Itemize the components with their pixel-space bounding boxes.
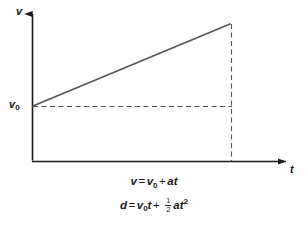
initial-velocity-subscript: 0 xyxy=(15,103,19,112)
velocity-equation-lhs: v xyxy=(131,175,137,187)
displacement-equation-equals: = xyxy=(127,199,137,211)
fraction-denominator: 2 xyxy=(165,205,171,214)
displacement-equation-plus: + xyxy=(151,199,161,211)
velocity-equation: v=v0+at xyxy=(0,176,308,188)
displacement-equation-lhs: d xyxy=(120,199,127,211)
y-axis-label: v xyxy=(16,6,22,17)
displacement-equation-v0-sub: 0 xyxy=(143,204,147,213)
velocity-equation-at: at xyxy=(167,175,177,187)
displacement-equation-exponent: 2 xyxy=(184,197,188,206)
x-axis-label: t xyxy=(290,164,294,175)
velocity-equation-plus: + xyxy=(158,175,168,187)
velocity-equation-v0-sub: 0 xyxy=(153,181,157,190)
one-half-fraction: 12 xyxy=(165,197,171,214)
displacement-equation-at2: at2 xyxy=(173,199,188,211)
displacement-equation-at: at xyxy=(173,199,183,211)
displacement-equation-v0t: v0t xyxy=(137,199,152,211)
fraction-numerator: 1 xyxy=(165,197,171,205)
displacement-equation: d=v0t+12at2 xyxy=(0,198,308,215)
velocity-plot-line xyxy=(33,24,230,106)
velocity-equation-equals: = xyxy=(137,175,147,187)
equation-block: v=v0+at d=v0t+12at2 xyxy=(0,176,308,214)
velocity-time-figure: v t v0 v=v0+at d=v0t+12at2 xyxy=(0,0,308,227)
initial-velocity-label: v0 xyxy=(9,99,20,110)
velocity-equation-v0: v0 xyxy=(147,175,158,187)
